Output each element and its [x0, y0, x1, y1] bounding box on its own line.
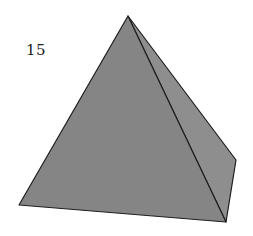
pyramid-diagram	[0, 0, 253, 236]
